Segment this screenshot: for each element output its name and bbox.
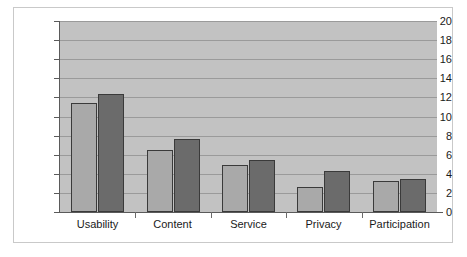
bar (400, 179, 426, 212)
bar (373, 181, 399, 212)
y-tick-mark (54, 136, 59, 137)
y-tick-label: 20 (418, 16, 452, 27)
y-tick-mark (54, 59, 59, 60)
x-axis-category-label: Service (211, 218, 286, 231)
y-tick-label: 6 (418, 150, 452, 161)
gridline (60, 21, 437, 22)
bar (297, 187, 323, 212)
bar-chart-figure: 02468101214161820 UsabilityContentServic… (13, 7, 453, 243)
bar (174, 139, 200, 212)
y-tick-mark (54, 212, 59, 213)
x-axis-category-label: Participation (362, 218, 437, 231)
bar (147, 150, 173, 212)
bar (98, 94, 124, 212)
y-tick-label: 16 (418, 54, 452, 65)
y-tick-mark (54, 40, 59, 41)
x-axis-category-label: Usability (60, 218, 135, 231)
y-tick-label: 12 (418, 92, 452, 103)
y-tick-label: 14 (418, 73, 452, 84)
bar (249, 160, 275, 212)
x-axis-line (54, 212, 443, 213)
y-tick-mark (54, 21, 59, 22)
y-tick-label: 18 (418, 35, 452, 46)
y-tick-label: 8 (418, 131, 452, 142)
x-axis-category-label: Content (135, 218, 210, 231)
y-tick-label: 10 (418, 112, 452, 123)
bar (222, 165, 248, 212)
y-tick-mark (54, 174, 59, 175)
y-tick-mark (54, 78, 59, 79)
bar (324, 171, 350, 212)
y-tick-mark (54, 97, 59, 98)
bar (71, 103, 97, 212)
gridline (60, 40, 437, 41)
y-tick-mark (54, 155, 59, 156)
gridline (60, 78, 437, 79)
y-tick-mark (54, 193, 59, 194)
gridline (60, 59, 437, 60)
y-tick-mark (54, 117, 59, 118)
x-axis-category-label: Privacy (286, 218, 361, 231)
y-axis-line (59, 21, 60, 213)
